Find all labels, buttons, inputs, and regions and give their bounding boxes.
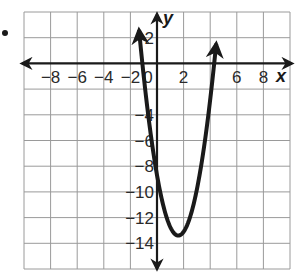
y-tick-label: −12 <box>125 209 154 228</box>
y-axis-label: y <box>162 8 174 28</box>
x-tick-label: 8 <box>259 68 268 87</box>
y-tick-label: −14 <box>125 234 154 253</box>
x-tick-label: −8 <box>41 68 60 87</box>
axes <box>22 14 292 269</box>
x-axis-label: x <box>275 66 287 86</box>
coordinate-plane: −8−6−4−226802−4−6−8−10−12−14 x y <box>0 0 307 280</box>
x-tick-label: 6 <box>232 68 241 87</box>
y-tick-label: −10 <box>125 183 154 202</box>
parabola-curve <box>139 30 216 236</box>
x-tick-label: 2 <box>179 68 188 87</box>
x-tick-label: −2 <box>121 68 140 87</box>
y-tick-label: −8 <box>135 157 154 176</box>
y-tick-label: 2 <box>145 29 154 48</box>
x-tick-label: −6 <box>68 68 87 87</box>
x-tick-label: −4 <box>94 68 113 87</box>
